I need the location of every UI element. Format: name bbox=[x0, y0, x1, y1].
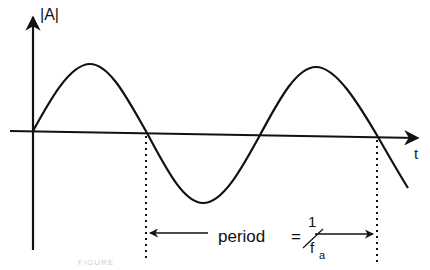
x-axis bbox=[10, 131, 418, 138]
sine-wave-curve bbox=[33, 64, 408, 203]
waveform-diagram bbox=[0, 0, 430, 270]
period-label: period bbox=[218, 227, 265, 247]
equals-sign: = bbox=[291, 227, 301, 247]
caption-fragment: FIGURE bbox=[78, 258, 114, 267]
fraction-numerator: 1 bbox=[308, 213, 316, 230]
frequency-subscript: a bbox=[319, 249, 325, 261]
y-axis-label: |A| bbox=[40, 6, 59, 24]
x-axis-label: t bbox=[414, 145, 418, 163]
fraction-denominator: f bbox=[310, 239, 314, 256]
